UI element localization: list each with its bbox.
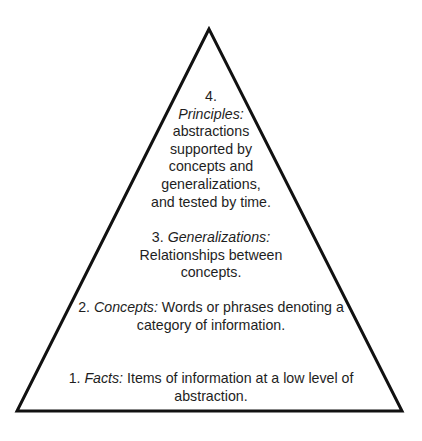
level-4-principles: 4. Principles: abstractions supported by…: [0, 88, 422, 211]
level-2-desc-line: Words or phrases denoting a: [162, 299, 344, 315]
level-4-desc-line: concepts and: [0, 158, 422, 176]
pyramid-outline: [17, 29, 402, 411]
level-2-term: Concepts:: [94, 299, 158, 315]
level-3-term: Generalizations:: [168, 229, 271, 245]
level-2-heading: 2. Concepts: Words or phrases denoting a: [0, 299, 422, 317]
level-1-term: Facts:: [84, 370, 123, 386]
level-3-generalizations: 3. Generalizations: Relationships betwee…: [0, 229, 422, 282]
level-1-facts: 1. Facts: Items of information at a low …: [0, 370, 422, 405]
level-3-desc-line: concepts.: [0, 264, 422, 282]
level-4-desc-line: supported by: [0, 141, 422, 159]
level-1-heading: 1. Facts: Items of information at a low …: [0, 370, 422, 388]
level-3-desc-line: Relationships between: [0, 247, 422, 265]
level-3-heading: 3. Generalizations:: [0, 229, 422, 247]
level-1-number: 1.: [69, 370, 81, 386]
level-2-number: 2.: [78, 299, 90, 315]
level-4-desc-line: and tested by time.: [0, 194, 422, 212]
level-4-number: 4.: [0, 88, 422, 106]
level-2-concepts: 2. Concepts: Words or phrases denoting a…: [0, 299, 422, 334]
level-1-desc-line: abstraction.: [0, 388, 422, 406]
level-4-desc-line: generalizations,: [0, 176, 422, 194]
level-4-term: Principles:: [0, 106, 422, 124]
level-4-desc-line: abstractions: [0, 123, 422, 141]
level-3-number: 3.: [152, 229, 164, 245]
level-1-desc-line: Items of information at a low level of: [127, 370, 353, 386]
level-2-desc-line: category of information.: [0, 317, 422, 335]
